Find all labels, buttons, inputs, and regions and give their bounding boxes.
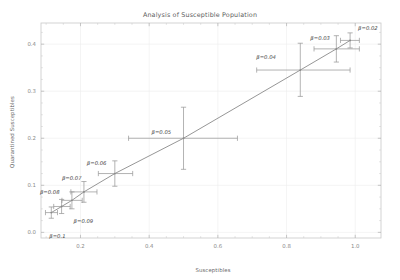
data-point-label: β=0.02 <box>358 25 378 32</box>
data-point-label: β=0.08 <box>40 189 60 196</box>
data-point-marker <box>83 191 85 193</box>
chart-container: Analysis of Susceptible Population 0.20.… <box>0 0 400 280</box>
data-point-label: β=0.06 <box>87 160 107 167</box>
data-point-marker <box>114 173 116 175</box>
data-point-label: β=0.05 <box>152 129 172 136</box>
x-axis-label: Susceptibles <box>195 267 230 274</box>
data-point-label: β=0.09 <box>74 218 94 225</box>
data-point-marker <box>50 212 52 214</box>
susceptible-population-scatter-chart: Analysis of Susceptible Population 0.20.… <box>0 0 400 280</box>
data-point-label: β=0.07 <box>62 175 82 182</box>
x-tick-label: 0.2 <box>76 243 85 249</box>
x-tick-label: 0.6 <box>214 243 223 249</box>
chart-title: Analysis of Susceptible Population <box>143 11 257 19</box>
data-point-marker <box>61 206 63 208</box>
y-tick-label: 0.4 <box>27 41 36 47</box>
data-point-marker <box>183 137 185 139</box>
data-point-marker <box>335 48 337 50</box>
data-point-marker <box>299 69 301 71</box>
data-point-label: β=0.03 <box>310 35 330 42</box>
y-tick-label: 0.1 <box>27 182 36 188</box>
data-point-marker <box>349 40 351 42</box>
y-tick-label: 0.0 <box>27 229 36 235</box>
data-point-marker <box>71 199 73 201</box>
x-tick-label: 1.0 <box>351 243 360 249</box>
data-point-label: β=0.04 <box>256 54 276 61</box>
y-tick-label: 0.2 <box>27 135 36 141</box>
x-tick-label: 0.4 <box>145 243 154 249</box>
x-tick-label: 0.8 <box>282 243 291 249</box>
data-point-label: β=0.1 <box>49 233 65 240</box>
y-tick-label: 0.3 <box>27 88 36 94</box>
y-axis-label: Quarantined Susceptibles <box>9 96 16 168</box>
